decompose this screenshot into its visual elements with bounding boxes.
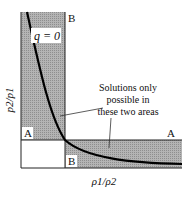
curve-label: q = 0 bbox=[34, 29, 60, 43]
diagram-canvas: q = 0 B A B A Solutions only possible in… bbox=[0, 0, 189, 200]
region-label-b-bottom: B bbox=[68, 155, 75, 167]
annotation-line-3: these two areas bbox=[97, 106, 158, 117]
region-label-a-left: A bbox=[24, 127, 32, 139]
annotation-line-1: Solutions only bbox=[99, 82, 157, 93]
x-axis-label: ρ1/ρ2 bbox=[91, 175, 117, 187]
region-label-a-right: A bbox=[167, 127, 175, 139]
y-axis-label: p2/p1 bbox=[3, 87, 15, 113]
annotation-line-2: possible in bbox=[106, 94, 149, 105]
region-label-b-top: B bbox=[68, 12, 75, 24]
annotation: Solutions only possible in these two are… bbox=[60, 82, 159, 148]
